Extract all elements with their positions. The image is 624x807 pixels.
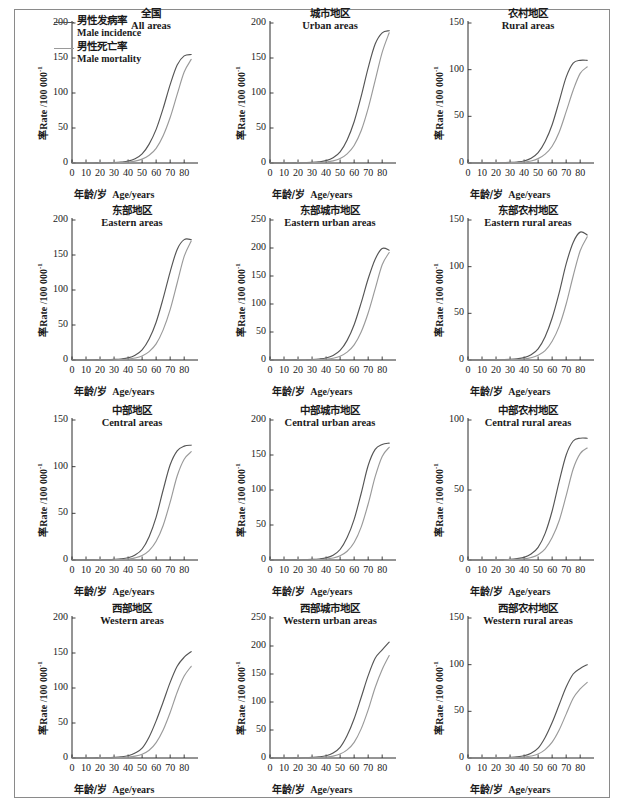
series-line-mortality <box>72 666 191 758</box>
x-tick-label: 80 <box>172 364 196 375</box>
y-tick-label: 0 <box>432 353 464 364</box>
y-tick-label: 0 <box>234 353 266 364</box>
series-line-mortality <box>270 656 389 758</box>
y-tick-label: 50 <box>234 518 266 529</box>
y-tick-label: 250 <box>234 213 266 224</box>
x-tick-label: 80 <box>370 762 394 773</box>
y-tick-label: 50 <box>36 716 68 727</box>
series-line-mortality <box>468 237 587 360</box>
chart-panel: 西部农村地区Western rural areas率Rate /100 000-… <box>406 598 614 798</box>
y-tick-label: 0 <box>36 553 68 564</box>
y-tick-label: 50 <box>234 723 266 734</box>
y-tick-label: 50 <box>36 121 68 132</box>
y-tick-label: 200 <box>36 213 68 224</box>
legend-label-zh: 男性发病率 <box>77 15 141 27</box>
series-line-mortality <box>270 447 389 560</box>
y-tick-label: 100 <box>36 681 68 692</box>
chart-panel: 农村地区Rural areas率Rate /100 000-1年龄/岁 Age/… <box>406 3 614 203</box>
y-tick-label: 50 <box>234 325 266 336</box>
y-tick-label: 50 <box>432 704 464 715</box>
y-tick-label: 100 <box>432 658 464 669</box>
legend-label-zh: 男性死亡率 <box>77 41 141 53</box>
x-tick-label: 80 <box>568 364 592 375</box>
y-tick-label: 150 <box>36 413 68 424</box>
y-tick-label: 150 <box>234 269 266 280</box>
y-tick-label: 0 <box>36 353 68 364</box>
x-tick-label: 80 <box>172 564 196 575</box>
y-tick-label: 0 <box>432 156 464 167</box>
y-tick-label: 150 <box>432 213 464 224</box>
y-tick-label: 0 <box>234 751 266 762</box>
series-line-incidence <box>468 60 587 163</box>
panel-grid: 全国All areas率Rate /100 000-1年龄/岁 Age/year… <box>0 0 624 807</box>
y-tick-label: 100 <box>432 63 464 74</box>
y-tick-label: 0 <box>432 553 464 564</box>
y-tick-label: 50 <box>234 121 266 132</box>
x-tick-label: 80 <box>370 364 394 375</box>
y-tick-label: 150 <box>36 248 68 259</box>
series-line-incidence <box>270 443 389 560</box>
series-line-mortality <box>468 67 587 163</box>
y-tick-label: 150 <box>432 611 464 622</box>
x-tick-label: 80 <box>568 564 592 575</box>
y-tick-label: 0 <box>432 751 464 762</box>
y-tick-label: 150 <box>36 51 68 62</box>
y-tick-label: 50 <box>432 483 464 494</box>
y-tick-label: 200 <box>234 241 266 252</box>
legend-line-icon <box>54 48 74 49</box>
chart-panel: 中部农村地区Central rural areas率Rate /100 000-… <box>406 400 614 600</box>
chart-panel: 城市地区Urban areas率Rate /100 000-1年龄/岁 Age/… <box>208 3 416 203</box>
y-tick-label: 0 <box>36 751 68 762</box>
y-tick-label: 200 <box>36 611 68 622</box>
series-line-mortality <box>270 33 389 163</box>
y-tick-label: 250 <box>234 611 266 622</box>
chart-panel: 全国All areas率Rate /100 000-1年龄/岁 Age/year… <box>10 3 218 203</box>
y-tick-label: 100 <box>234 297 266 308</box>
y-tick-label: 100 <box>432 413 464 424</box>
x-tick-label: 80 <box>370 564 394 575</box>
legend-line-icon <box>54 22 74 23</box>
legend-label-en: Male incidence <box>77 27 141 39</box>
y-tick-label: 150 <box>432 16 464 27</box>
y-tick-label: 0 <box>234 553 266 564</box>
y-tick-label: 100 <box>36 283 68 294</box>
chart-panel: 东部农村地区Eastern rural areas率Rate /100 000-… <box>406 200 614 400</box>
x-tick-label: 80 <box>172 762 196 773</box>
series-line-incidence <box>468 665 587 758</box>
chart-panel: 中部城市地区Central urban areas率Rate /100 000-… <box>208 400 416 600</box>
y-tick-label: 200 <box>234 413 266 424</box>
legend-label-en: Male mortality <box>77 53 141 65</box>
y-tick-label: 200 <box>234 639 266 650</box>
series-line-mortality <box>72 452 191 560</box>
x-tick-label: 80 <box>568 167 592 178</box>
y-tick-label: 50 <box>36 506 68 517</box>
y-tick-label: 50 <box>432 306 464 317</box>
y-tick-label: 0 <box>234 156 266 167</box>
x-tick-label: 80 <box>172 167 196 178</box>
y-tick-label: 100 <box>234 483 266 494</box>
y-tick-label: 50 <box>432 109 464 120</box>
y-tick-label: 150 <box>234 667 266 678</box>
chart-panel: 西部地区Western areas率Rate /100 000-1年龄/岁 Ag… <box>10 598 218 798</box>
series-line-incidence <box>468 438 587 560</box>
chart-panel: 东部城市地区Eastern urban areas率Rate /100 000-… <box>208 200 416 400</box>
y-tick-label: 150 <box>234 448 266 459</box>
series-line-incidence <box>468 232 587 360</box>
y-tick-label: 100 <box>432 260 464 271</box>
series-line-incidence <box>72 445 191 560</box>
y-tick-label: 200 <box>234 16 266 27</box>
y-tick-label: 100 <box>36 460 68 471</box>
y-tick-label: 0 <box>36 156 68 167</box>
chart-panel: 西部城市地区Western urban areas率Rate /100 000-… <box>208 598 416 798</box>
y-tick-label: 100 <box>234 86 266 97</box>
y-tick-label: 100 <box>36 86 68 97</box>
y-tick-label: 150 <box>234 51 266 62</box>
chart-panel: 东部地区Eastern areas率Rate /100 000-1年龄/岁 Ag… <box>10 200 218 400</box>
y-tick-label: 150 <box>36 646 68 657</box>
series-line-mortality <box>468 448 587 560</box>
x-tick-label: 80 <box>568 762 592 773</box>
y-tick-label: 50 <box>36 318 68 329</box>
y-tick-label: 100 <box>234 695 266 706</box>
x-tick-label: 80 <box>370 167 394 178</box>
series-line-mortality <box>468 682 587 758</box>
